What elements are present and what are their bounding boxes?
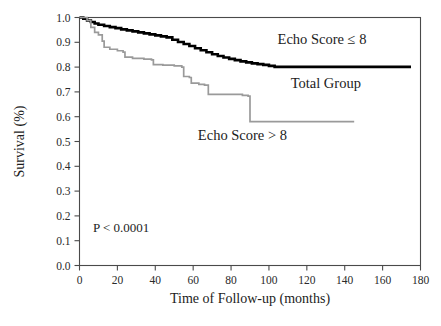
y-axis-tick-labels: 0.00.10.20.30.40.50.60.70.80.91.0 — [56, 12, 71, 272]
y-tick-label-0.6: 0.6 — [56, 111, 71, 123]
x-tick-label-80: 80 — [225, 274, 237, 286]
y-tick-label-0.4: 0.4 — [56, 160, 71, 172]
x-tick-label-0: 0 — [77, 274, 83, 286]
y-tick-label-0.7: 0.7 — [56, 86, 71, 98]
y-tick-label-0.8: 0.8 — [56, 61, 71, 73]
x-tick-label-140: 140 — [336, 274, 354, 286]
y-axis-title: Survival (%) — [12, 105, 28, 177]
x-tick-label-20: 20 — [112, 274, 124, 286]
y-axis-ticks — [75, 18, 80, 266]
y-tick-label-0.3: 0.3 — [56, 185, 71, 197]
series-label-total-group: Total Group — [291, 75, 361, 91]
series-label-echo-score-gt-8: Echo Score > 8 — [198, 127, 287, 143]
x-axis-title: Time of Follow-up (months) — [170, 291, 330, 307]
series-annotations: Echo Score ≤ 8Echo Score > 8Total Group — [198, 31, 367, 143]
series-label-echo-score-le-8: Echo Score ≤ 8 — [278, 31, 367, 47]
x-tick-label-40: 40 — [150, 274, 162, 286]
x-tick-label-180: 180 — [412, 274, 430, 286]
annotation-p-value: P < 0.0001 — [93, 220, 149, 235]
x-tick-label-120: 120 — [298, 274, 316, 286]
survival-chart-figure: 020406080100120140160180 0.00.10.20.30.4… — [0, 0, 441, 326]
x-axis-tick-labels: 020406080100120140160180 — [77, 274, 430, 286]
chart-canvas: 020406080100120140160180 0.00.10.20.30.4… — [0, 0, 441, 326]
x-axis-ticks — [80, 266, 421, 271]
y-tick-label-0.9: 0.9 — [56, 36, 71, 48]
y-tick-label-0.1: 0.1 — [56, 235, 71, 247]
x-tick-label-100: 100 — [260, 274, 278, 286]
y-tick-label-0.5: 0.5 — [56, 136, 71, 148]
x-tick-label-160: 160 — [374, 274, 392, 286]
statistics-annotations: P < 0.0001 — [93, 220, 149, 235]
y-tick-label-1.0: 1.0 — [56, 12, 71, 24]
y-tick-label-0.2: 0.2 — [56, 210, 71, 222]
y-tick-label-0.0: 0.0 — [56, 260, 71, 272]
x-tick-label-60: 60 — [187, 274, 199, 286]
